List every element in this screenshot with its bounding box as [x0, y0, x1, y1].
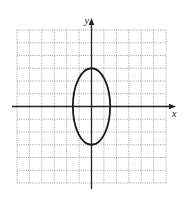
axes — [12, 18, 176, 189]
y-axis-arrow-icon — [89, 18, 95, 25]
x-axis-label: x — [171, 108, 177, 119]
y-axis-label: y — [84, 15, 90, 26]
coordinate-plane: x y — [0, 0, 184, 198]
